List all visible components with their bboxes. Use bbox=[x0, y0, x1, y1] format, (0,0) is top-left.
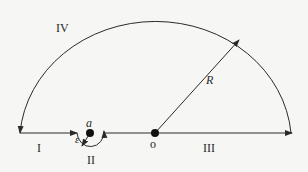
label-II: II bbox=[87, 154, 95, 166]
label-IV: IV bbox=[56, 22, 69, 34]
label-o: o bbox=[150, 138, 156, 150]
radius-R bbox=[155, 40, 239, 133]
contour-diagram: IV I II III R a o ε bbox=[0, 0, 308, 172]
label-III: III bbox=[203, 142, 215, 154]
label-epsilon: ε bbox=[75, 133, 79, 145]
label-R: R bbox=[206, 74, 213, 86]
point-o-dot bbox=[151, 129, 159, 137]
arc-IV bbox=[20, 21, 291, 133]
point-a-dot bbox=[86, 129, 94, 137]
label-a: a bbox=[86, 117, 92, 129]
label-I: I bbox=[37, 142, 41, 154]
